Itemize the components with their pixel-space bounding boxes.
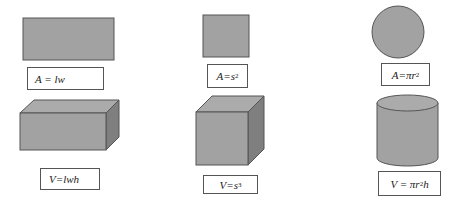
rectangular-prism-shape <box>20 100 119 150</box>
rectangle-area-formula: A = lw <box>27 67 104 90</box>
formula-text: A=s <box>217 70 235 82</box>
formula-exponent: 2 <box>235 72 239 80</box>
cube-shape <box>196 96 264 165</box>
cylinder-volume-formula: V = πr2h <box>378 171 441 196</box>
circle-shape <box>372 6 424 58</box>
formula-exponent: 2 <box>416 71 420 79</box>
rectangular-prism-volume-formula: V=lwh <box>40 168 100 190</box>
rectangle-shape <box>23 18 114 60</box>
formula-tail: h <box>423 178 429 190</box>
formula-text: V=lwh <box>49 173 79 185</box>
formula-text: V = πr <box>390 178 419 190</box>
square-shape <box>203 15 249 57</box>
cylinder-shape <box>377 95 438 166</box>
formula-text: A=πr <box>392 69 416 81</box>
circle-area-formula: A=πr2 <box>381 63 430 86</box>
formula-text: V=s <box>220 179 238 191</box>
square-area-formula: A=s2 <box>207 64 248 88</box>
formula-exponent: 3 <box>238 181 242 189</box>
cube-volume-formula: V=s3 <box>203 175 258 194</box>
formula-text: A = lw <box>35 73 65 85</box>
